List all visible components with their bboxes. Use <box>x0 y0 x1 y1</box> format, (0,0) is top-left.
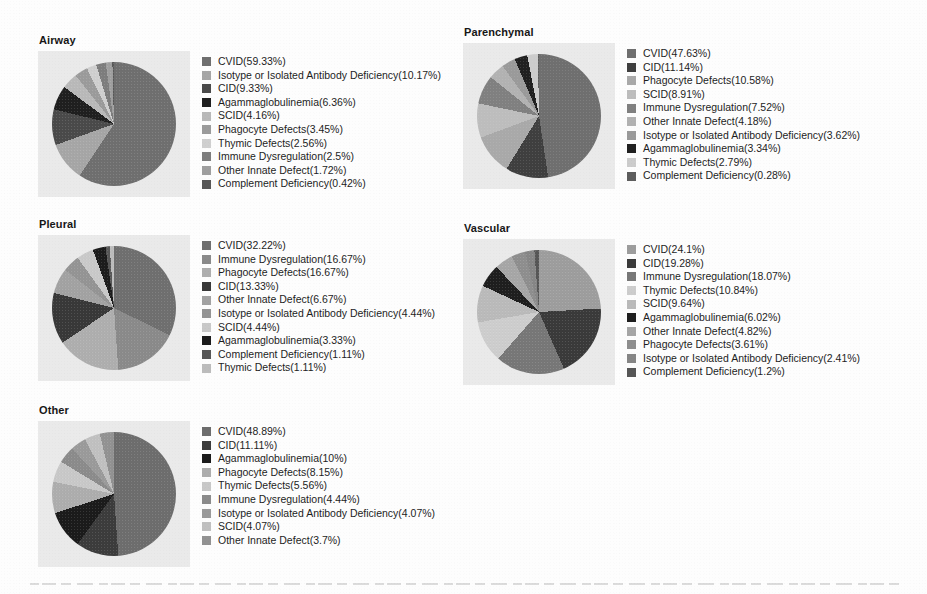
panel-body-vascular: CVID(24.1%)CID(19.28%)Immune Dysregulati… <box>463 239 911 385</box>
legend-pleural: CVID(32.22%)Immune Dysregulation(16.67%)… <box>202 235 458 375</box>
legend-item-label: Complement Deficiency(0.42%) <box>218 177 366 191</box>
figure-canvas: Airway CVID(59.33%)Isotype or Isolated A… <box>0 0 927 594</box>
legend-item-label: SCID(4.44%) <box>218 321 280 335</box>
legend-item-label: Immune Dysregulation(7.52%) <box>643 101 785 115</box>
plot-area-other <box>38 421 190 567</box>
chart-panel-other: Other CVID(48.89%)CID(11.11%)Agammaglobu… <box>38 404 458 567</box>
legend-swatch-icon <box>627 286 636 295</box>
legend-swatch-icon <box>202 166 211 175</box>
panel-body-pleural: CVID(32.22%)Immune Dysregulation(16.67%)… <box>38 235 458 381</box>
legend-item-label: Complement Deficiency(1.11%) <box>218 348 365 362</box>
legend-item: Isotype or Isolated Antibody Deficiency(… <box>202 307 458 321</box>
legend-item-label: Isotype or Isolated Antibody Deficiency(… <box>218 307 435 321</box>
panel-body-airway: CVID(59.33%)Isotype or Isolated Antibody… <box>38 51 458 197</box>
legend-item-label: CVID(48.89%) <box>218 425 286 439</box>
legend-swatch-icon <box>627 354 636 363</box>
legend-item: CID(13.33%) <box>202 280 458 294</box>
legend-item-label: Phagocyte Defects(10.58%) <box>643 74 774 88</box>
legend-item-label: Immune Dysregulation(2.5%) <box>218 150 354 164</box>
legend-swatch-icon <box>627 313 636 322</box>
legend-item: SCID(4.44%) <box>202 321 458 335</box>
legend-item: Immune Dysregulation(2.5%) <box>202 150 458 164</box>
legend-swatch-icon <box>202 495 211 504</box>
legend-item: Phagocyte Defects(8.15%) <box>202 466 458 480</box>
legend-swatch-icon <box>627 117 636 126</box>
legend-item: CID(9.33%) <box>202 82 458 96</box>
legend-item-label: Phagocyte Defects(8.15%) <box>218 466 343 480</box>
legend-swatch-icon <box>627 340 636 349</box>
legend-item: Thymic Defects(2.79%) <box>627 156 903 170</box>
legend-item-label: SCID(4.07%) <box>218 520 280 534</box>
legend-swatch-icon <box>202 139 211 148</box>
legend-item: Agammaglobulinemia(3.33%) <box>202 334 458 348</box>
legend-item: Phagocyte Defects(3.45%) <box>202 123 458 137</box>
legend-swatch-icon <box>627 172 636 181</box>
legend-swatch-icon <box>202 441 211 450</box>
legend-item-label: Phagocyte Defects(3.45%) <box>218 123 343 137</box>
legend-item-label: Agammaglobulinemia(6.02%) <box>643 311 781 325</box>
legend-item-label: Immune Dysregulation(4.44%) <box>218 493 360 507</box>
legend-item-label: Phagocyte Defects(16.67%) <box>218 266 349 280</box>
legend-item: CID(11.14%) <box>627 61 903 75</box>
legend-item-label: Immune Dysregulation(16.67%) <box>218 253 366 267</box>
legend-swatch-icon <box>202 98 211 107</box>
pie-chart-vascular <box>477 250 601 374</box>
panel-body-parenchymal: CVID(47.63%)CID(11.14%)Phagocyte Defects… <box>463 43 903 189</box>
legend-swatch-icon <box>627 144 636 153</box>
chart-panel-parenchymal: Parenchymal CVID(47.63%)CID(11.14%)Phago… <box>463 26 903 189</box>
legend-swatch-icon <box>202 427 211 436</box>
legend-swatch-icon <box>202 112 211 121</box>
legend-item-label: Complement Deficiency(1.2%) <box>643 365 785 379</box>
legend-item: Other Innate Defect(4.18%) <box>627 115 903 129</box>
legend-item: Immune Dysregulation(4.44%) <box>202 493 458 507</box>
legend-swatch-icon <box>202 57 211 66</box>
legend-item: Other Innate Defect(4.82%) <box>627 325 911 339</box>
legend-item-label: Other Innate Defect(4.18%) <box>643 115 771 129</box>
legend-swatch-icon <box>202 482 211 491</box>
legend-swatch-icon <box>627 272 636 281</box>
panel-title-pleural: Pleural <box>39 218 458 230</box>
plot-area-vascular <box>463 239 615 385</box>
legend-item-label: Agammaglobulinemia(3.33%) <box>218 334 356 348</box>
legend-item-label: Agammaglobulinemia(10%) <box>218 452 347 466</box>
legend-item-label: Immune Dysregulation(18.07%) <box>643 270 791 284</box>
legend-swatch-icon <box>202 296 211 305</box>
legend-swatch-icon <box>202 509 211 518</box>
legend-item: Complement Deficiency(0.28%) <box>627 169 903 183</box>
legend-item: Isotype or Isolated Antibody Deficiency(… <box>202 69 458 83</box>
legend-item: Immune Dysregulation(7.52%) <box>627 101 903 115</box>
legend-item-label: Isotype or Isolated Antibody Deficiency(… <box>218 69 441 83</box>
panel-title-vascular: Vascular <box>464 222 911 234</box>
legend-item: SCID(4.16%) <box>202 109 458 123</box>
legend-item: CVID(24.1%) <box>627 243 911 257</box>
legend-item-label: Isotype or Isolated Antibody Deficiency(… <box>643 129 860 143</box>
legend-swatch-icon <box>202 536 211 545</box>
legend-swatch-icon <box>627 131 636 140</box>
legend-other: CVID(48.89%)CID(11.11%)Agammaglobulinemi… <box>202 421 458 547</box>
chart-panel-vascular: Vascular CVID(24.1%)CID(19.28%)Immune Dy… <box>463 222 911 385</box>
legend-swatch-icon <box>202 364 211 373</box>
pie-chart-other <box>52 432 176 556</box>
pie-chart-airway <box>52 62 176 186</box>
legend-item: CVID(59.33%) <box>202 55 458 69</box>
legend-item-label: CID(9.33%) <box>218 82 273 96</box>
legend-item: SCID(9.64%) <box>627 297 911 311</box>
legend-item-label: Thymic Defects(2.56%) <box>218 137 327 151</box>
legend-swatch-icon <box>202 350 211 359</box>
plot-area-pleural <box>38 235 190 381</box>
legend-item: Agammaglobulinemia(10%) <box>202 452 458 466</box>
legend-item-label: Agammaglobulinemia(3.34%) <box>643 142 781 156</box>
legend-swatch-icon <box>627 327 636 336</box>
legend-item: CID(19.28%) <box>627 257 911 271</box>
legend-item: CID(11.11%) <box>202 439 458 453</box>
legend-item: CVID(47.63%) <box>627 47 903 61</box>
panel-body-other: CVID(48.89%)CID(11.11%)Agammaglobulinemi… <box>38 421 458 567</box>
legend-item-label: Agammaglobulinemia(6.36%) <box>218 96 356 110</box>
legend-swatch-icon <box>202 268 211 277</box>
legend-item: CVID(32.22%) <box>202 239 458 253</box>
legend-item: Complement Deficiency(1.11%) <box>202 348 458 362</box>
legend-item-label: Thymic Defects(1.11%) <box>218 361 326 375</box>
legend-item: Phagocyte Defects(3.61%) <box>627 338 911 352</box>
legend-swatch-icon <box>202 152 211 161</box>
legend-item: CVID(48.89%) <box>202 425 458 439</box>
